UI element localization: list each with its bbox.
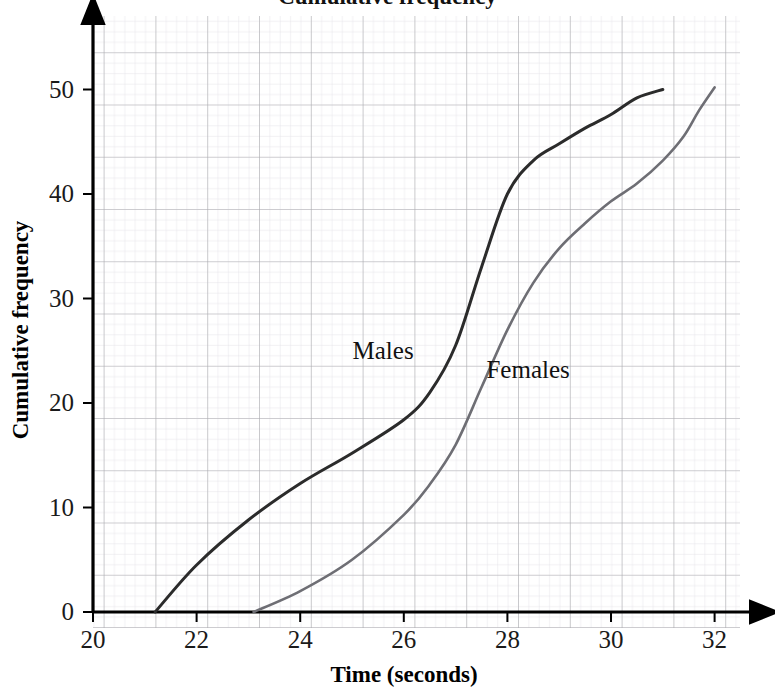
cumulative-frequency-chart: Cumulative frequency: [0, 0, 775, 693]
y-tick-label: 0: [62, 598, 75, 625]
y-axis-title: Cumulative frequency: [8, 220, 33, 439]
x-tick-label: 32: [702, 626, 727, 653]
y-tick-label: 50: [49, 76, 74, 103]
x-tick-labels: 20 22 24 26 28 30 32: [81, 626, 728, 653]
grid-paper: [93, 16, 740, 628]
curve-label-males: Males: [353, 337, 414, 364]
curve-label-females: Females: [486, 356, 569, 383]
x-tick-label: 28: [495, 626, 520, 653]
y-tick-labels: 0 10 20 30 40 50: [49, 76, 74, 626]
x-axis-title: Time (seconds): [330, 662, 477, 687]
y-tick-label: 20: [49, 389, 74, 416]
y-tick-label: 10: [49, 494, 74, 521]
y-tick-label: 30: [49, 285, 74, 312]
x-tick-label: 26: [391, 626, 416, 653]
chart-canvas: 20 22 24 26 28 30 32 0 10 20 30 40 50 Ti…: [0, 0, 775, 693]
x-tick-label: 24: [288, 626, 314, 653]
x-tick-label: 30: [599, 626, 624, 653]
y-tick-label: 40: [49, 180, 74, 207]
x-tick-label: 20: [81, 626, 106, 653]
x-tick-label: 22: [184, 626, 209, 653]
figure-partial-title: Cumulative frequency: [0, 0, 775, 10]
